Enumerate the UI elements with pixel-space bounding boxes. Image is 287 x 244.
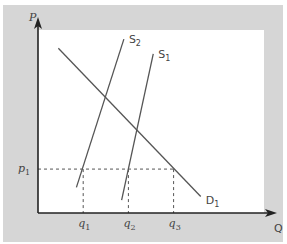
s2-label-subscript: 2 [136,39,141,48]
p1-label-subscript: 1 [25,168,30,177]
q2-label: q2 [123,217,135,232]
q1-label-main: q [78,217,85,230]
p1-label: p1 [18,162,30,177]
q3-label-subscript: 3 [176,223,181,232]
plot-area [38,30,264,213]
s1-label-subscript: 1 [165,54,170,63]
s2-label-main: S [129,33,136,46]
x-axis-label: Q [274,222,283,235]
q1-label: q1 [78,217,90,232]
d1-label-subscript: 1 [214,200,219,209]
q2-label-subscript: 2 [130,223,135,232]
p1-label-main: p [18,162,25,175]
q1-label-subscript: 1 [85,223,90,232]
d1-label-main: D [206,194,214,207]
q3-label-main: q [169,217,176,230]
s1-label-main: S [158,48,165,61]
q3-label: q3 [169,217,181,232]
supply-demand-diagram: P Q D1S2S1p1q1q2q3 [0,0,287,244]
q2-label-main: q [123,217,130,230]
y-axis-label: P [28,11,37,24]
